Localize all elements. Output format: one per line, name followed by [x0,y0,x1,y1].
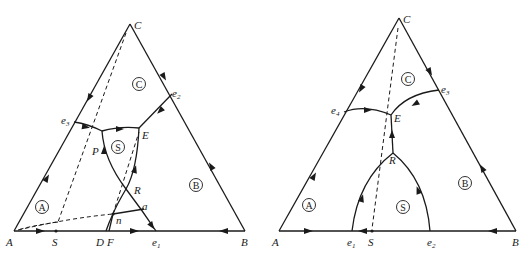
left-label-F: F [106,236,114,248]
right-label-R: R [388,154,396,166]
left-label-e2: e2 [172,87,181,101]
arrow-icon [206,161,215,171]
arrow-icon [130,228,139,234]
left-dash-A-n [18,214,113,230]
arrow-icon [488,228,497,234]
right-label-A: A [271,236,279,248]
arrow-icon [410,99,420,108]
left-side-AC [14,24,130,231]
left-curve-e3-P [74,122,102,131]
left-curve-P-R-e1 [102,131,156,231]
left-label-E: E [141,129,149,141]
left-label-S: S [52,236,58,248]
left-label-A: A [5,236,13,248]
left-label-R: R [133,184,141,196]
right-ternary-diagram: C A B e1 S e2 e3 e4 E R C A B S [271,13,519,250]
left-label-n: n [116,214,122,226]
right-label-E: E [393,112,401,124]
left-curve-e2-E [139,94,172,128]
phase-diagrams: C A B S D F e1 e2 e3 P E R n a C A B S [0,0,527,255]
left-curve-E-R-n-D [106,128,139,231]
right-label-e1: e1 [347,236,355,250]
left-ternary-diagram: C A B S D F e1 e2 e3 P E R n a C A B S [5,19,248,250]
left-point-S [54,229,57,232]
right-label-e2: e2 [427,236,436,250]
right-field-S: S [400,202,406,213]
arrow-icon [358,228,367,234]
arrow-icon [309,171,318,181]
right-label-S: S [368,236,374,248]
right-point-S [370,229,373,232]
arrow-icon [116,126,124,132]
left-label-C: C [134,19,142,31]
left-field-C: C [136,79,143,90]
arrow-icon [36,228,45,234]
left-point-n [111,212,114,215]
right-side-AC [279,18,399,231]
left-field-B: B [193,180,200,191]
right-field-B: B [462,178,469,189]
right-field-A: A [305,200,313,211]
right-label-e4: e4 [331,104,340,118]
right-curve-R-e2 [393,153,430,231]
left-label-D: D [95,236,104,248]
left-field-A: A [38,202,46,213]
right-side-BC [399,18,516,231]
left-field-S: S [115,142,121,153]
left-label-P: P [91,145,99,157]
right-curve-R-e1 [352,153,393,231]
left-label-a: a [142,200,148,212]
arrow-icon [389,130,395,138]
left-label-B: B [241,236,248,248]
left-label-e3: e3 [61,114,70,128]
left-label-e1: e1 [152,236,160,250]
right-label-B: B [512,236,519,248]
arrow-icon [84,93,93,103]
arrow-icon [219,228,228,234]
arrow-icon [364,107,372,113]
right-label-C: C [403,13,411,25]
arrow-icon [155,106,165,116]
right-field-C: C [405,74,412,85]
arrow-icon [304,228,313,234]
right-label-e3: e3 [441,83,450,97]
